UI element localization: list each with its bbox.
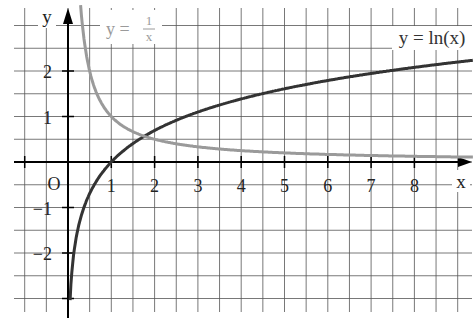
inv-curve-label-denominator: x xyxy=(146,29,153,44)
y-tick-label: −1 xyxy=(33,199,52,219)
x-tick-label: 8 xyxy=(410,176,419,196)
origin-label: O xyxy=(48,174,61,194)
axes xyxy=(14,8,472,318)
inv-curve-label-prefix: y = xyxy=(106,19,130,39)
x-tick-label: 6 xyxy=(323,176,332,196)
x-axis-label: x xyxy=(456,171,466,192)
grid xyxy=(14,8,472,312)
labels: 1234567821−1−2Oxyy = ln(x)y =1x xyxy=(33,6,472,264)
x-tick-label: 3 xyxy=(193,176,202,196)
x-tick-label: 5 xyxy=(280,176,289,196)
x-tick-label: 1 xyxy=(107,176,116,196)
x-tick-label: 7 xyxy=(367,176,376,196)
inv-curve-label-numerator: 1 xyxy=(146,13,153,28)
x-tick-label: 4 xyxy=(237,176,246,196)
y-tick-label: −2 xyxy=(33,244,52,264)
chart-canvas: 1234567821−1−2Oxyy = ln(x)y =1x xyxy=(0,0,476,321)
ln-curve-label: y = ln(x) xyxy=(399,27,466,49)
y-tick-label: 1 xyxy=(43,108,52,128)
y-tick-label: 2 xyxy=(43,62,52,82)
y-axis-arrow-icon xyxy=(63,8,73,24)
x-tick-label: 2 xyxy=(150,176,159,196)
y-axis-label: y xyxy=(42,6,52,27)
